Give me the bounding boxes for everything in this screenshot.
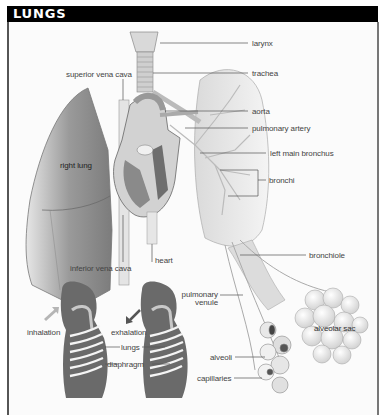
label-trachea: trachea — [252, 69, 278, 78]
label-alveolar-sac: alveolar sac — [314, 324, 356, 333]
exhalation-figure — [126, 282, 188, 399]
inhalation-figure — [45, 282, 108, 399]
left-lung-shape — [170, 70, 269, 247]
label-alveoli: alveoli — [210, 353, 232, 362]
alveoli-shape — [258, 322, 291, 393]
label-pulmonary-artery: pulmonary artery — [252, 124, 310, 133]
label-bronchi: bronchi — [269, 176, 295, 185]
label-larynx: larynx — [252, 39, 273, 48]
label-capillaries: capillaries — [197, 374, 231, 383]
label-exhalation: exhalation — [111, 328, 146, 337]
label-right-lung: right lung — [60, 161, 92, 170]
label-inhalation: inhalation — [27, 328, 60, 337]
label-heart: heart — [155, 256, 173, 265]
label-pulmonary-venule-line2: venule — [180, 298, 218, 307]
label-lungs: lungs — [121, 343, 140, 352]
label-inferior-vena-cava: inferior vena cava — [70, 264, 131, 273]
label-superior-vena-cava: superior vena cava — [66, 70, 132, 79]
label-diaphragm: diaphragm — [107, 360, 144, 369]
label-bronchiole: bronchiole — [309, 251, 345, 260]
label-left-main-bronchus: left main bronchus — [270, 149, 334, 158]
label-aorta: aorta — [252, 107, 270, 116]
